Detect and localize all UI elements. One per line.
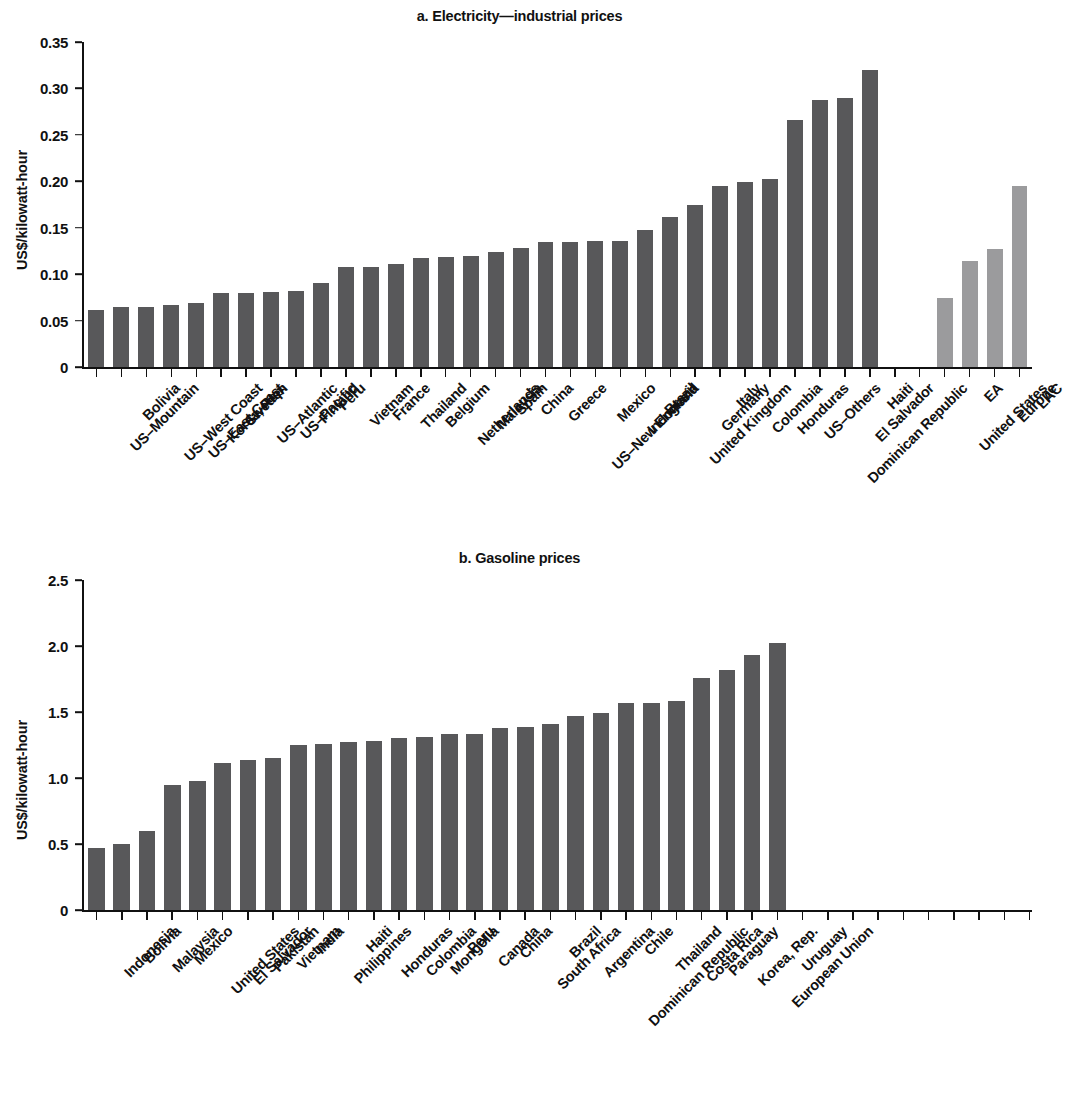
x-tick-mark xyxy=(903,912,905,920)
country-bar xyxy=(837,98,853,367)
country-bar xyxy=(313,283,329,368)
country-bar xyxy=(88,848,105,910)
country-bar xyxy=(637,230,653,367)
x-tick-mark xyxy=(1004,912,1006,920)
country-bar xyxy=(463,256,479,367)
x-tick-mark xyxy=(751,912,753,920)
country-bar xyxy=(542,724,559,910)
x-tick-mark xyxy=(449,912,451,920)
y-tick-mark xyxy=(75,88,82,90)
x-tick-mark xyxy=(370,369,372,377)
x-tick-mark xyxy=(171,912,173,920)
x-tick-mark xyxy=(550,912,552,920)
country-bar xyxy=(88,310,104,367)
country-bar xyxy=(139,831,156,910)
country-bar xyxy=(163,305,179,367)
country-bar xyxy=(265,758,282,910)
country-bar xyxy=(466,734,483,910)
y-axis-line xyxy=(82,580,84,911)
x-tick-mark xyxy=(247,912,249,920)
y-tick-mark xyxy=(75,366,82,368)
x-tick-mark xyxy=(398,912,400,920)
x-tick-mark xyxy=(520,369,522,377)
y-tick-mark xyxy=(75,843,82,845)
country-bar xyxy=(315,744,332,910)
country-bar xyxy=(363,267,379,367)
country-bar xyxy=(662,217,678,367)
country-bar xyxy=(618,703,635,910)
y-tick-label: 2.0 xyxy=(48,638,68,655)
x-tick-mark xyxy=(146,912,148,920)
country-bar xyxy=(213,293,229,367)
y-tick-label: 1.0 xyxy=(48,770,68,787)
y-tick-mark xyxy=(75,227,82,229)
country-bar xyxy=(413,258,429,367)
x-tick-label: India xyxy=(313,923,347,957)
x-tick-mark xyxy=(96,912,98,920)
x-tick-mark xyxy=(944,369,946,377)
country-bar xyxy=(538,242,554,367)
country-bar xyxy=(862,70,878,367)
x-tick-mark xyxy=(424,912,426,920)
country-bar xyxy=(366,741,383,910)
country-bar xyxy=(188,303,204,367)
x-tick-mark xyxy=(894,369,896,377)
x-tick-mark xyxy=(670,369,672,377)
country-bar xyxy=(737,182,753,367)
y-tick-label: 0.35 xyxy=(40,34,68,51)
x-tick-mark xyxy=(625,912,627,920)
x-tick-mark xyxy=(295,369,297,377)
x-tick-mark xyxy=(645,369,647,377)
x-tick-mark xyxy=(877,912,879,920)
country-bar xyxy=(391,738,408,910)
aggregate-bar xyxy=(962,261,978,367)
country-bar xyxy=(340,742,357,910)
x-tick-mark xyxy=(819,369,821,377)
x-tick-mark xyxy=(869,369,871,377)
country-bar xyxy=(138,307,154,367)
x-tick-mark xyxy=(827,912,829,920)
country-bar xyxy=(164,785,181,910)
x-tick-mark xyxy=(320,369,322,377)
country-bar xyxy=(492,728,509,910)
x-tick-mark xyxy=(744,369,746,377)
country-bar xyxy=(438,257,454,367)
country-bar xyxy=(693,678,710,910)
x-tick-mark xyxy=(676,912,678,920)
country-bar xyxy=(290,745,307,910)
x-tick-mark xyxy=(600,912,602,920)
country-bar xyxy=(214,763,231,910)
x-tick-mark xyxy=(373,912,375,920)
x-tick-mark xyxy=(222,912,224,920)
country-bar xyxy=(562,242,578,367)
x-tick-mark xyxy=(802,912,804,920)
y-tick-mark xyxy=(75,645,82,647)
x-tick-mark xyxy=(978,912,980,920)
x-tick-mark xyxy=(852,912,854,920)
x-tick-mark xyxy=(121,912,123,920)
country-bar xyxy=(189,781,206,910)
chart-a-title: a. Electricity—industrial prices xyxy=(0,0,1039,24)
chart-b-plot-area: 00.51.01.52.02.5IndonesiaBoliviaMalaysia… xyxy=(84,580,1032,910)
country-bar xyxy=(513,248,529,367)
country-bar xyxy=(712,186,728,367)
chart-panel-b: b. Gasoline prices US$/kilowatt-hour 00.… xyxy=(0,540,1039,1102)
chart-panel-a: a. Electricity—industrial prices US$/kil… xyxy=(0,0,1039,540)
y-tick-mark xyxy=(75,134,82,136)
chart-a-y-axis-title: US$/kilowatt-hour xyxy=(14,150,30,270)
country-bar xyxy=(762,179,778,367)
x-tick-mark xyxy=(524,912,526,920)
x-tick-mark xyxy=(121,369,123,377)
x-axis-line xyxy=(82,367,1032,369)
y-tick-mark xyxy=(75,41,82,43)
x-tick-mark xyxy=(245,369,247,377)
x-tick-mark xyxy=(595,369,597,377)
country-bar xyxy=(338,267,354,367)
x-tick-mark xyxy=(919,369,921,377)
y-axis-line xyxy=(82,42,84,368)
x-tick-mark xyxy=(953,912,955,920)
y-tick-mark xyxy=(75,320,82,322)
country-bar xyxy=(744,655,761,910)
x-tick-mark xyxy=(1019,369,1021,377)
x-tick-mark xyxy=(96,369,98,377)
